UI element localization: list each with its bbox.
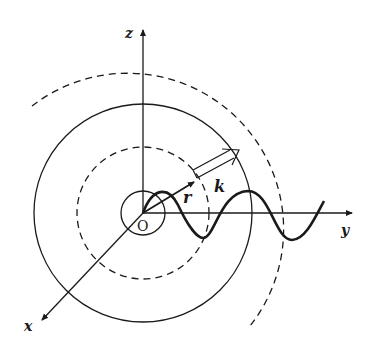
z-axis-label: z <box>124 25 134 41</box>
spherical-wave-diagram: z y x O r k <box>0 0 371 358</box>
origin-label: O <box>137 218 148 234</box>
x-axis-label: x <box>23 318 33 334</box>
y-axis-label: y <box>340 222 350 238</box>
r-label: r <box>183 188 193 207</box>
k-label: k <box>214 177 225 196</box>
wavefront-dashed-outer <box>32 73 284 326</box>
wave-curve <box>143 191 324 240</box>
x-axis <box>42 213 143 320</box>
k-vector <box>193 149 239 178</box>
